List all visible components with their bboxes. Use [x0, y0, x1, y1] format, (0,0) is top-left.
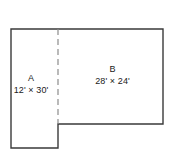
- floor-plan-drawing: [0, 0, 175, 156]
- floor-plan-diagram: A 12' × 30' B 28' × 24': [0, 0, 175, 156]
